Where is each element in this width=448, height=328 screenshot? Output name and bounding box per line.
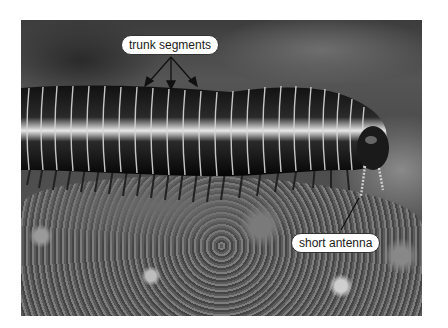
millipede-body [21,20,422,316]
millipede-photo: trunk segments short antenna [21,20,422,316]
trunk-segments-label: trunk segments [121,35,219,55]
short-antenna-label: short antenna [291,233,380,253]
